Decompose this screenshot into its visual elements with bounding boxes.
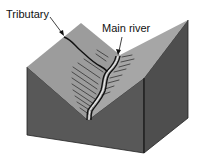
tributary-arrow — [50, 17, 64, 36]
valley-block-illustration — [0, 0, 199, 157]
valley-diagram: Tributary Main river — [0, 0, 199, 157]
main-river-arrow — [116, 37, 122, 55]
tributary-label: Tributary — [6, 9, 49, 20]
main-river-label: Main river — [102, 23, 150, 34]
